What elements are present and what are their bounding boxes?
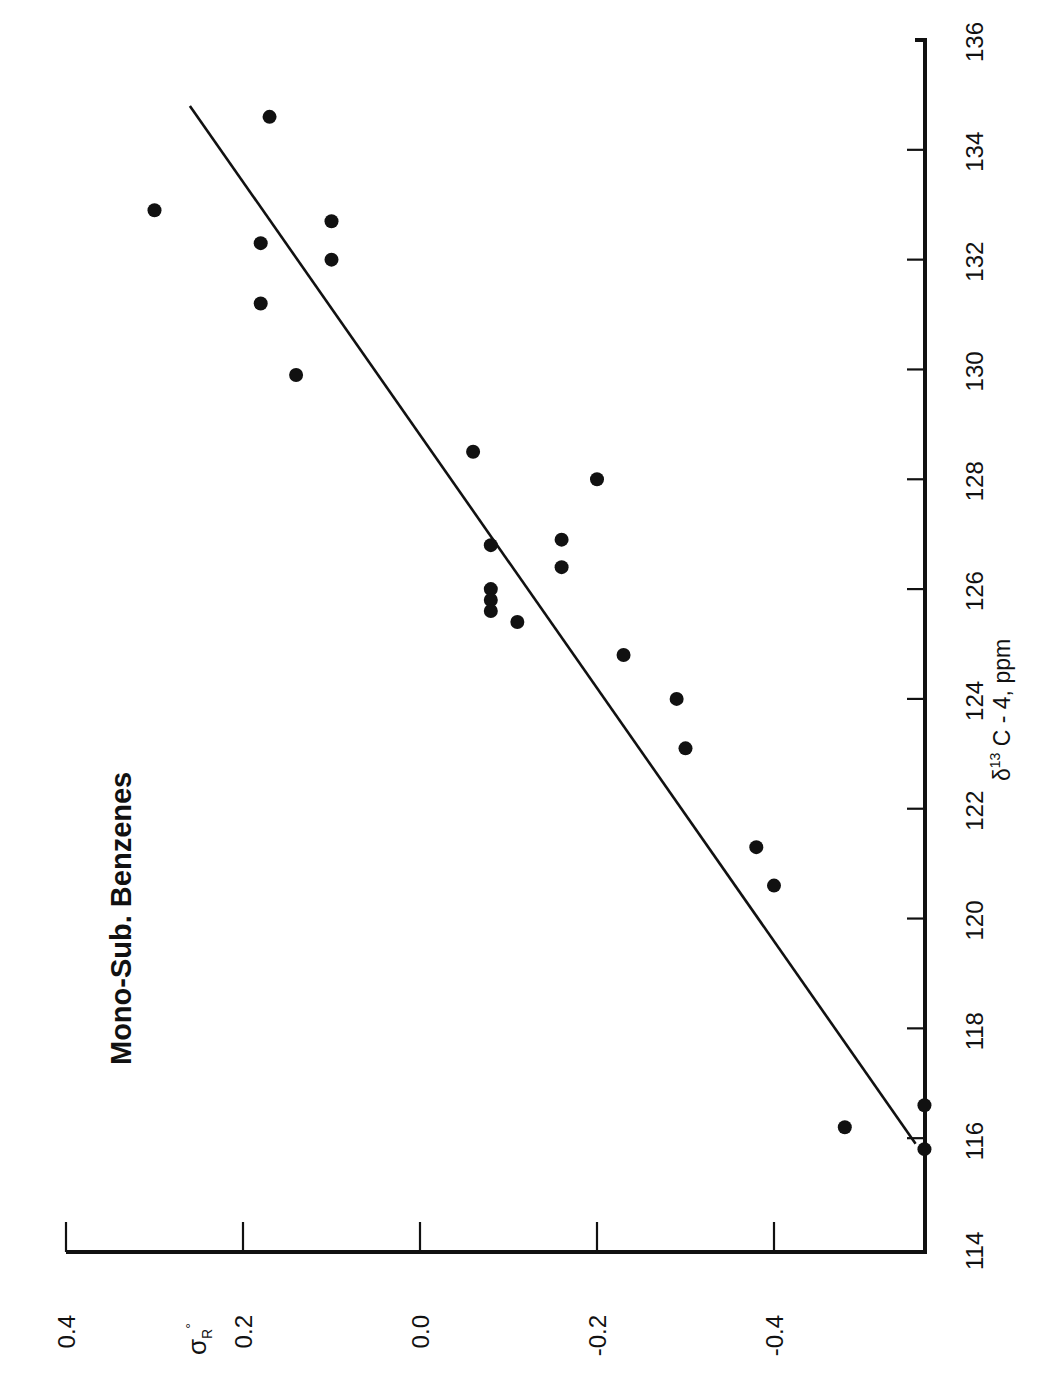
x-tick-label: 114 <box>961 1232 988 1270</box>
data-point <box>466 445 480 459</box>
data-point <box>484 604 498 618</box>
data-point <box>838 1120 852 1134</box>
data-point <box>289 368 303 382</box>
data-point <box>325 214 339 228</box>
y-tick-label: -0.2 <box>584 1315 611 1356</box>
x-axis-title-delta: δ <box>989 768 1015 781</box>
data-point <box>148 203 162 217</box>
y-tick-label: 0.4 <box>53 1315 80 1348</box>
axis-ticks: 1141161181201221241261281301321341360.40… <box>53 22 988 1356</box>
chart-title: Mono-Sub. Benzenes <box>105 772 137 1065</box>
axis-frame <box>66 40 925 1252</box>
data-point <box>670 692 684 706</box>
data-point <box>555 533 569 547</box>
fit-line <box>190 106 916 1144</box>
x-tick-label: 122 <box>961 791 988 831</box>
x-tick-label: 120 <box>961 900 988 940</box>
x-axis-title-superscript: 13 <box>987 752 1003 768</box>
x-tick-label: 116 <box>961 1122 988 1160</box>
x-tick-label: 136 <box>961 22 988 62</box>
x-tick-label: 126 <box>961 571 988 611</box>
x-axis-title: δ13 C - 4, ppm <box>987 639 1015 781</box>
data-point <box>325 253 339 267</box>
regression-line <box>190 106 916 1144</box>
x-tick-label: 130 <box>961 351 988 391</box>
data-point <box>617 648 631 662</box>
x-tick-label: 124 <box>961 681 988 721</box>
x-tick-label: 134 <box>961 132 988 172</box>
x-tick-label: 118 <box>961 1012 988 1050</box>
data-point <box>749 840 763 854</box>
data-point <box>484 538 498 552</box>
data-point <box>767 879 781 893</box>
data-point <box>590 472 604 486</box>
y-tick-label: 0.0 <box>407 1315 434 1348</box>
x-tick-label: 132 <box>961 242 988 282</box>
y-axis-title-superscript: ° <box>183 1323 199 1329</box>
y-tick-label: -0.4 <box>761 1315 788 1356</box>
y-axis-title: σR° <box>182 1323 215 1355</box>
y-axis-title-sigma: σ <box>182 1339 212 1355</box>
data-point <box>555 560 569 574</box>
data-point <box>254 297 268 311</box>
data-point <box>917 1142 931 1156</box>
axes <box>66 40 925 1252</box>
scatter-chart: 1141161181201221241261281301321341360.40… <box>0 0 1044 1400</box>
data-point <box>679 741 693 755</box>
data-point <box>254 236 268 250</box>
x-axis-title-rest: C - 4, ppm <box>989 639 1015 753</box>
y-axis-title-subscript: R <box>199 1329 215 1339</box>
x-tick-label: 128 <box>961 461 988 501</box>
data-point <box>263 110 277 124</box>
data-point <box>510 615 524 629</box>
y-tick-label: 0.2 <box>230 1315 257 1348</box>
data-point <box>917 1098 931 1112</box>
